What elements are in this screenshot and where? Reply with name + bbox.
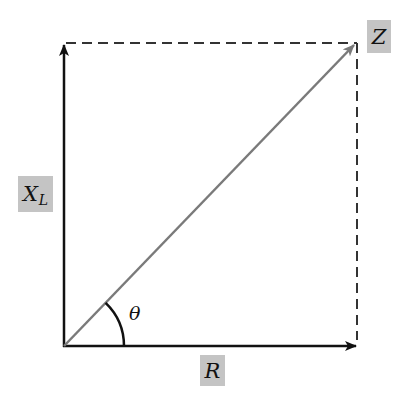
r-label-text: R: [205, 359, 221, 383]
z-label: Z: [367, 20, 391, 53]
angle-arc: [106, 303, 124, 346]
xl-label: XL: [18, 176, 53, 212]
impedance-triangle-diagram: [0, 0, 398, 407]
theta-label: θ: [129, 302, 140, 324]
xl-label-sub: L: [39, 192, 48, 208]
xl-label-main: X: [23, 182, 38, 206]
r-label: R: [200, 355, 225, 386]
z-vector-arrow: [64, 45, 354, 346]
z-label-text: Z: [372, 25, 387, 49]
